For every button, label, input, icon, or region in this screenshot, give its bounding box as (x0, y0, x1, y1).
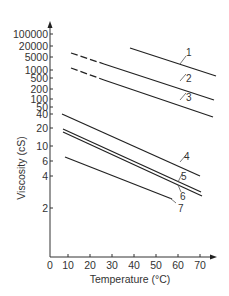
y-axis-title: Viscosity (cS) (15, 136, 27, 199)
curve-label-3: 3 (186, 92, 192, 103)
curve-label-1: 1 (186, 47, 192, 58)
curve-label-2: 2 (186, 73, 192, 84)
y-axis-arrow-icon (48, 21, 53, 28)
x-axis-title: Temperature (°C) (90, 273, 171, 285)
line-1 (130, 48, 216, 76)
curve-label-7: 7 (178, 203, 184, 214)
line-2-dashed (71, 53, 104, 64)
svg-text:4: 4 (42, 170, 48, 182)
svg-text:6: 6 (42, 155, 48, 167)
x-tick-labels: 0 10 20 30 40 50 60 70 (47, 259, 206, 271)
svg-text:10: 10 (36, 140, 48, 152)
svg-text:40: 40 (36, 108, 48, 120)
line-5 (63, 129, 201, 192)
y-axis (48, 21, 53, 257)
line-4 (62, 114, 200, 176)
svg-text:30: 30 (106, 259, 118, 271)
svg-text:70: 70 (194, 259, 206, 271)
svg-text:0: 0 (47, 259, 53, 271)
svg-text:60: 60 (172, 259, 184, 271)
series-lines (62, 48, 216, 199)
line-3-dashed (71, 68, 104, 80)
x-axis-arrow-icon (210, 255, 217, 260)
svg-text:100000: 100000 (13, 28, 48, 40)
curve-label-5: 5 (181, 171, 187, 182)
svg-text:10: 10 (62, 259, 74, 271)
line-3 (104, 80, 213, 117)
svg-text:2: 2 (42, 202, 48, 214)
curve-label-6: 6 (180, 191, 186, 202)
svg-text:50: 50 (150, 259, 162, 271)
svg-text:20: 20 (36, 122, 48, 134)
curve-label-4: 4 (184, 151, 190, 162)
svg-text:5000: 5000 (25, 51, 49, 63)
line-7 (65, 157, 172, 199)
svg-text:40: 40 (128, 259, 140, 271)
svg-text:20: 20 (84, 259, 96, 271)
viscosity-temperature-chart: 100000 20000 5000 1000 500 200 100 50 40… (0, 0, 229, 296)
